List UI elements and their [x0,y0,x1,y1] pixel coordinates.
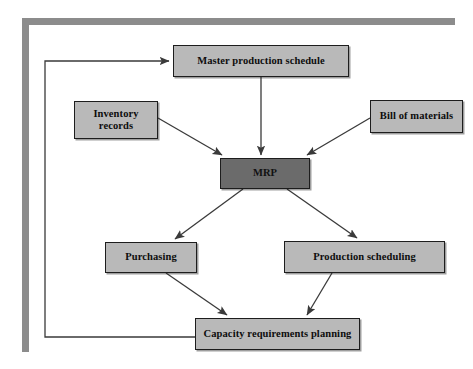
node-label: Master production schedule [193,55,329,67]
node-label: Bill of materials [376,110,457,122]
connector-mrp-to-purchasing [175,189,243,239]
mrp-flow-diagram: Master production schedule Inventory rec… [0,0,473,369]
node-master-production-schedule[interactable]: Master production schedule [173,45,349,77]
connector-production-scheduling-to-capacity [307,273,332,315]
connector-mrp-to-production-scheduling [287,189,357,238]
node-label: Purchasing [121,251,181,263]
node-label: Inventory records [89,108,142,132]
node-capacity-requirements-planning[interactable]: Capacity requirements planning [195,318,360,350]
connector-bom-to-mrp [307,118,370,155]
node-production-scheduling[interactable]: Production scheduling [284,241,445,273]
node-label: Capacity requirements planning [200,328,356,340]
connector-purchasing-to-capacity [166,273,227,315]
node-label: MRP [249,167,281,179]
node-label: Production scheduling [309,251,420,263]
node-label-line-1: Inventory [93,108,138,119]
node-inventory-records[interactable]: Inventory records [74,101,158,139]
node-mrp[interactable]: MRP [220,158,310,189]
node-bill-of-materials[interactable]: Bill of materials [370,100,463,133]
connector-inventory-to-mrp [158,118,222,155]
node-label-line-2: records [99,120,133,131]
node-purchasing[interactable]: Purchasing [105,242,197,273]
